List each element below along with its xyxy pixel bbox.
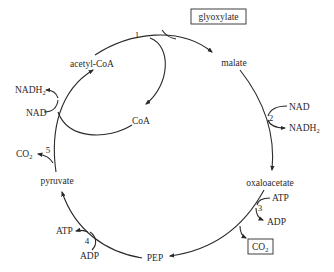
nadh2-left-main: NADH: [15, 85, 43, 95]
step-4-label: 4: [85, 236, 90, 246]
glyoxylate-label: glyoxylate: [198, 12, 238, 22]
glyoxylate-cycle-diagram: glyoxylate 1 malate acetyl-CoA CoA NAD 2…: [0, 0, 334, 272]
nadh2-main: NADH: [289, 123, 317, 133]
step-5-label: 5: [46, 145, 51, 155]
adp-label-step3: ADP: [267, 217, 286, 227]
co2-main: CO: [252, 242, 265, 252]
nadh2-subscript: 2: [316, 127, 319, 134]
nadh2-left-subscript: 2: [42, 89, 45, 96]
nadh2-output-arrow-left: [46, 90, 58, 98]
step-2-label: 2: [269, 113, 274, 123]
adp-label-step4: ADP: [80, 251, 99, 261]
co2-subscript-step5: 2: [29, 153, 32, 160]
acetyl-coa-label: acetyl-CoA: [70, 59, 114, 69]
arc-pyruvate-to-acetylcoa: [54, 70, 93, 172]
co2-output-arrow-step3: [240, 226, 246, 238]
step-1-label: 1: [135, 30, 140, 40]
coa-label: CoA: [132, 116, 150, 126]
nad-label-left: NAD: [26, 108, 47, 118]
step-3-label: 3: [258, 203, 263, 213]
co2-output-arrow-step5: [38, 154, 53, 163]
nad-label-step2: NAD: [289, 102, 310, 112]
co2-main-step5: CO: [16, 149, 29, 159]
co2-label-step5: CO2: [16, 149, 32, 160]
pep-label: PEP: [147, 253, 163, 263]
co2-subscript: 2: [265, 246, 268, 253]
coa-return-loop: [58, 112, 132, 135]
arc-pep-to-pyruvate: [62, 192, 142, 258]
oxaloacetate-label: oxaloacetate: [246, 178, 293, 188]
atp-label-step3: ATP: [272, 193, 289, 203]
nadh2-label-step2: NADH2: [289, 123, 320, 134]
arc-step1-to-malate: [95, 35, 212, 55]
arc-step1-to-coa: [146, 38, 165, 104]
malate-label: malate: [221, 58, 246, 68]
atp-label-step4: ATP: [56, 226, 73, 236]
pyruvate-label: pyruvate: [40, 176, 73, 186]
nadh2-label-left: NADH2: [15, 85, 46, 96]
